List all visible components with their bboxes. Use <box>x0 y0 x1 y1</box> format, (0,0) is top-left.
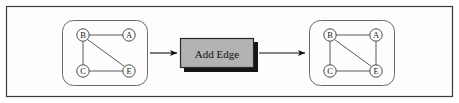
node-A: A <box>123 29 135 41</box>
diagram-canvas: B A C E Add Edge <box>0 0 459 103</box>
node-C-label: C <box>327 66 333 76</box>
node-C: C <box>77 65 89 77</box>
node-E: E <box>123 65 135 77</box>
node-B-label: B <box>80 30 86 40</box>
node-E-label: E <box>373 66 378 76</box>
add-edge-box-label: Add Edge <box>195 48 239 60</box>
node-E: E <box>370 65 382 77</box>
node-A-label: A <box>126 30 133 40</box>
node-E-label: E <box>126 66 131 76</box>
node-B: B <box>324 29 336 41</box>
node-C-label: C <box>80 66 86 76</box>
figure-container: B A C E Add Edge <box>0 0 459 103</box>
node-B-label: B <box>327 30 333 40</box>
node-A: A <box>370 29 382 41</box>
add-edge-operation-group[interactable]: Add Edge <box>181 39 259 73</box>
node-A-label: A <box>373 30 380 40</box>
node-B: B <box>77 29 89 41</box>
node-C: C <box>324 65 336 77</box>
